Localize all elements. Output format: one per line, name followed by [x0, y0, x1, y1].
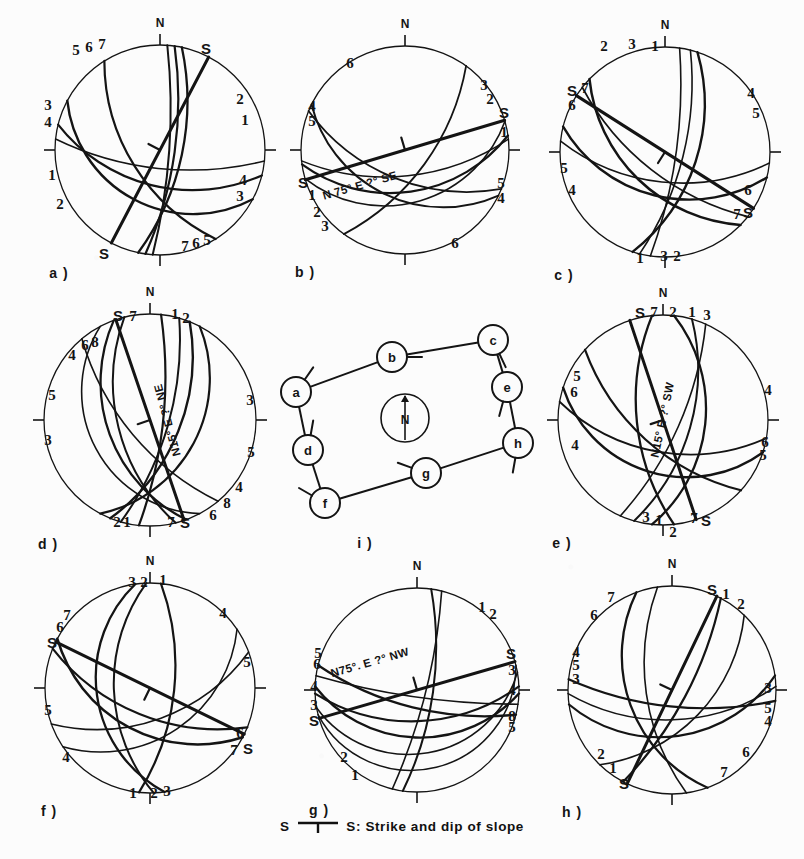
rim-number-e-14: 7 — [690, 511, 698, 526]
slope-marker-f-1: S — [47, 635, 57, 650]
slope-marker-f-2: S — [243, 741, 253, 756]
caption-text: : Strike and dip of slope — [356, 819, 524, 834]
rim-number-g-11: 2 — [340, 750, 348, 765]
compass-north-label: N — [401, 414, 410, 426]
rim-number-e-7: 4 — [571, 438, 579, 453]
pit-edge-hg — [440, 448, 503, 469]
rim-number-d-14: 2 — [113, 515, 121, 530]
rim-number-c-2: 3 — [628, 37, 636, 52]
joint-set-curve-4 — [563, 127, 767, 200]
panel-label-c: c ) — [554, 268, 573, 282]
rim-number-d-15: 1 — [123, 515, 131, 530]
rim-number-d-12: 8 — [223, 496, 231, 511]
rim-number-g-7: 3 — [508, 663, 516, 678]
rim-number-a-7: 2 — [56, 197, 64, 212]
rim-number-a-1: 5 — [72, 43, 80, 58]
rim-number-e-4: 3 — [703, 308, 711, 323]
rim-number-f-5: 6 — [56, 620, 64, 635]
rim-number-f-12: 1 — [129, 786, 137, 801]
rim-number-g-2: 2 — [489, 607, 497, 622]
rim-number-e-2: 2 — [669, 305, 677, 320]
slope-marker-a-1: S — [201, 41, 211, 56]
rim-number-d-5: 6 — [81, 338, 89, 353]
rim-number-a-4: 3 — [44, 98, 52, 113]
slope-marker-e-1: S — [635, 305, 645, 320]
rim-number-b-8: 2 — [486, 92, 494, 107]
slope-marker-g-2: S — [309, 713, 319, 728]
slope-dip-tick — [144, 688, 150, 700]
panel-label-i: i ) — [357, 536, 372, 550]
rim-number-a-5: 4 — [44, 115, 52, 130]
rim-number-e-1: 7 — [650, 305, 658, 320]
stereonet-d — [33, 303, 267, 537]
pit-node-label-c: c — [489, 334, 496, 347]
rim-number-g-5: 4 — [310, 679, 318, 694]
rim-number-c-12: 1 — [636, 251, 644, 266]
slope-marker-c-1: S — [567, 83, 577, 98]
slope-dip-tick — [660, 684, 672, 690]
panel-label-a: a ) — [49, 266, 68, 280]
rim-number-f-3: 1 — [159, 573, 167, 588]
rim-number-h-3: 1 — [722, 587, 730, 602]
rim-number-d-7: 5 — [48, 388, 56, 403]
rim-number-a-3: 7 — [98, 37, 106, 52]
rim-number-b-2: 4 — [308, 99, 316, 114]
joint-set-curve-3 — [139, 584, 175, 793]
rim-number-a-8: 2 — [236, 92, 244, 107]
panel-label-d: d ) — [38, 537, 58, 551]
strike-dip-symbol-icon — [296, 818, 340, 834]
rim-number-e-13: 2 — [669, 525, 677, 540]
slope-marker-b-1: S — [499, 105, 509, 120]
slope-marker-d-1: S — [113, 308, 123, 323]
rim-number-f-9: 5 — [243, 655, 251, 670]
rim-number-f-13: 2 — [150, 786, 158, 801]
rim-number-b-10: 5 — [497, 176, 505, 191]
rim-number-c-5: 6 — [568, 98, 576, 113]
rim-number-e-12: 1 — [655, 513, 663, 528]
pit-node-label-b: b — [388, 351, 396, 364]
joint-set-curve-1 — [622, 592, 708, 787]
rim-number-a-9: 1 — [241, 113, 249, 128]
rim-number-f-1: 3 — [128, 575, 136, 590]
rim-number-d-8: 3 — [44, 433, 52, 448]
stereonet-figure: N56734122143765SSa )N645123321546SSN 75°… — [0, 0, 804, 859]
figure-caption: S S: Strike and dip of slope — [0, 818, 804, 834]
pit-edge-gf — [339, 477, 411, 498]
rim-number-b-4: 1 — [308, 188, 316, 203]
rim-number-h-14: 7 — [720, 765, 728, 780]
north-label-g: N — [413, 560, 422, 572]
rim-number-a-10: 4 — [239, 173, 247, 188]
pit-edge-eh — [510, 402, 515, 429]
rim-number-f-11: 7 — [230, 743, 238, 758]
rim-number-c-11: 7 — [733, 207, 741, 222]
rim-number-d-3: 2 — [182, 311, 190, 326]
rim-number-b-1: 6 — [346, 56, 354, 71]
north-label-b: N — [401, 18, 410, 30]
joint-set-curve-5 — [561, 141, 770, 183]
rim-number-g-4: 6 — [313, 657, 321, 672]
joint-set-curve-2 — [644, 587, 686, 793]
rim-number-g-8: 4 — [508, 683, 516, 698]
rim-number-h-13: 1 — [609, 761, 617, 776]
panel-label-e: e ) — [552, 536, 571, 550]
rim-number-b-6: 3 — [321, 219, 329, 234]
rim-number-h-11: 6 — [742, 745, 750, 760]
north-label-a: N — [156, 17, 165, 29]
joint-set-curve-1 — [633, 52, 705, 252]
pit-edge-da — [299, 407, 305, 436]
compass-arrow-head — [401, 395, 409, 402]
rim-number-d-2: 1 — [171, 307, 179, 322]
rim-number-e-3: 1 — [688, 305, 696, 320]
rim-number-f-14: 3 — [163, 784, 171, 799]
stereonet-a — [44, 34, 276, 266]
north-label-e: N — [659, 287, 668, 299]
rim-number-d-10: 5 — [247, 445, 255, 460]
slope-dip-tick — [413, 678, 417, 690]
pit-edge-bc — [407, 342, 478, 354]
rim-number-e-11: 3 — [642, 510, 650, 525]
rim-number-d-6: 8 — [91, 335, 99, 350]
slope-marker-a-2: S — [99, 246, 109, 261]
rim-number-c-10: 6 — [744, 183, 752, 198]
slope-marker-g-1: S — [506, 646, 516, 661]
rim-number-c-3: 1 — [651, 39, 659, 54]
